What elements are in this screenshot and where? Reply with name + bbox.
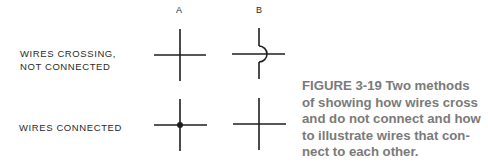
symbol-connected-plain xyxy=(233,98,286,150)
caption-line: FIGURE 3-19 Two methods xyxy=(302,78,488,95)
symbol-crossing-hop xyxy=(232,28,285,79)
caption-line: of showing how wires cross xyxy=(302,95,488,112)
caption-line: nect to each other. xyxy=(302,144,488,161)
symbol-crossing-plain xyxy=(154,29,206,81)
caption-line: to illustrate wires that con- xyxy=(302,128,488,145)
caption-line: and do not connect and how xyxy=(302,111,488,128)
figure-caption: FIGURE 3-19 Two methods of showing how w… xyxy=(302,78,488,161)
junction-dot-icon xyxy=(177,122,183,128)
